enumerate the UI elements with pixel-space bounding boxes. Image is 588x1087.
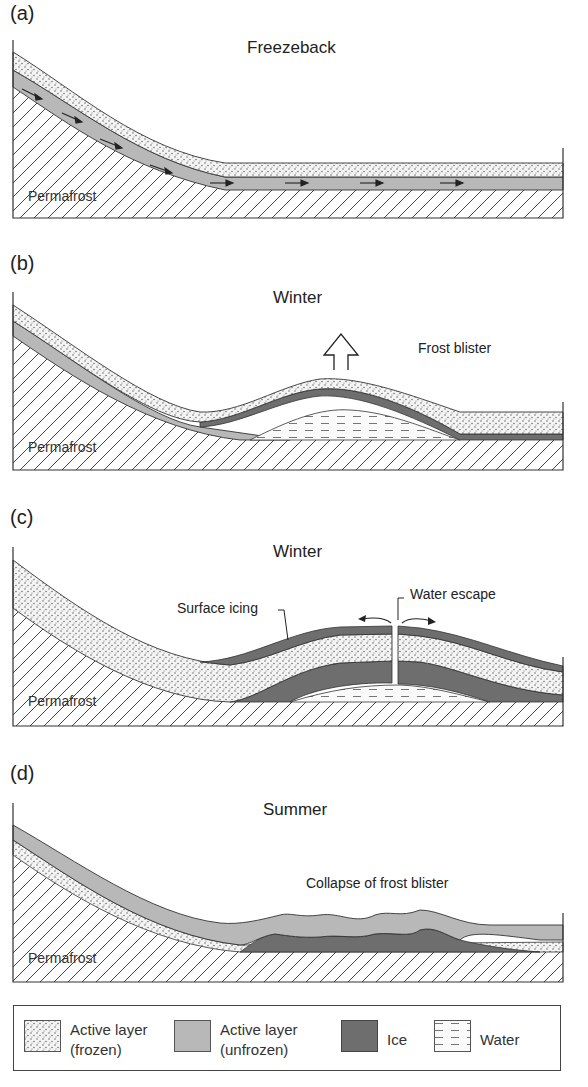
panel-title: Summer: [263, 800, 327, 820]
panel-a: (a) Freezeback Permafrost: [0, 2, 588, 232]
panel-label: (b): [10, 252, 34, 275]
legend-label: Ice: [387, 1030, 407, 1050]
panel-title: Freezeback: [247, 38, 336, 58]
water-escape-label: Water escape: [410, 586, 496, 602]
panel-label: (d): [10, 762, 34, 785]
panel-c: (c) Winter Surface icing Water escape Pe…: [0, 506, 588, 736]
legend-item-water: Water: [434, 1006, 554, 1072]
legend-label: Active layer: [70, 1021, 148, 1038]
panel-b: (b) Winter Frost blister Permafrost: [0, 252, 588, 482]
permafrost-label: Permafrost: [28, 439, 96, 455]
legend-label: Active layer: [220, 1021, 298, 1038]
legend-sublabel: (unfrozen): [220, 1041, 288, 1058]
legend-item-unfrozen: Active layer (unfrozen): [174, 1006, 324, 1072]
legend-item-ice: Ice: [341, 1006, 431, 1072]
permafrost-label: Permafrost: [28, 188, 96, 204]
stipple-swatch-icon: [24, 1020, 61, 1052]
panel-title: Winter: [273, 542, 322, 562]
dark-gray-swatch-icon: [341, 1020, 378, 1052]
panel-title: Winter: [273, 288, 322, 308]
legend-item-frozen: Active layer (frozen): [24, 1006, 174, 1072]
collapse-label: Collapse of frost blister: [306, 875, 448, 891]
water-swatch-icon: [434, 1020, 471, 1052]
panel-d: (d) Summer Collapse of frost blister Per…: [0, 762, 588, 992]
light-gray-swatch-icon: [174, 1020, 211, 1052]
legend-label: Water: [480, 1030, 519, 1050]
panel-label: (c): [10, 506, 33, 529]
panel-label: (a): [10, 2, 34, 25]
surface-icing-label: Surface icing: [177, 600, 258, 616]
frost-blister-label: Frost blister: [418, 340, 491, 356]
permafrost-label: Permafrost: [28, 950, 96, 966]
legend: Active layer (frozen) Active layer (unfr…: [13, 1005, 561, 1071]
legend-sublabel: (frozen): [70, 1041, 122, 1058]
permafrost-label: Permafrost: [28, 693, 96, 709]
